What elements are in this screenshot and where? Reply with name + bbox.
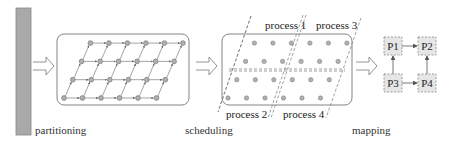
task-node xyxy=(80,96,85,101)
scheduled-task-node xyxy=(299,59,303,63)
task-edge xyxy=(111,64,117,78)
scheduled-tasks xyxy=(226,41,349,100)
svg-text:P3: P3 xyxy=(387,77,399,89)
task-graph-grid xyxy=(62,41,186,101)
task-node xyxy=(162,41,167,46)
task-edge xyxy=(84,82,90,96)
processor-p1: P1 xyxy=(384,37,402,55)
partition-graph-box xyxy=(57,34,189,105)
processor-p2: P2 xyxy=(418,37,436,55)
task-edge xyxy=(158,82,164,96)
task-node xyxy=(107,41,112,46)
scheduled-task-node xyxy=(326,41,330,45)
task-node xyxy=(117,96,122,101)
scheduled-task-node xyxy=(272,78,276,82)
scheduled-task-node xyxy=(263,96,267,100)
processor-p4: P4 xyxy=(418,74,436,92)
scheduled-task-node xyxy=(244,96,248,100)
scheduled-task-node xyxy=(317,59,321,63)
schedule-box: process 1 process 3 process 2 process 4 xyxy=(218,15,361,120)
task-node xyxy=(79,59,84,64)
scheduled-task-node xyxy=(280,59,284,63)
scheduled-task-node xyxy=(327,78,331,82)
svg-text:P4: P4 xyxy=(421,77,433,89)
task-edge xyxy=(66,82,72,96)
scheduled-task-node xyxy=(271,41,275,45)
hollow-arrow-icon xyxy=(196,57,217,75)
process-4-label: process 4 xyxy=(283,108,325,120)
task-node xyxy=(70,77,75,82)
task-edge xyxy=(121,82,127,96)
scheduled-task-node xyxy=(262,59,266,63)
task-edge xyxy=(157,46,163,60)
stage-label-mapping: mapping xyxy=(352,124,391,136)
scheduled-task-node xyxy=(290,78,294,82)
task-node xyxy=(126,77,131,82)
task-node xyxy=(163,77,168,82)
task-node xyxy=(99,96,104,101)
task-node xyxy=(154,96,159,101)
task-edge xyxy=(167,64,173,78)
scheduled-task-node xyxy=(252,41,256,45)
task-node xyxy=(88,41,93,46)
scheduled-task-node xyxy=(300,96,304,100)
process-boundary-right xyxy=(326,18,361,118)
task-edge xyxy=(102,46,108,60)
scheduled-task-node xyxy=(336,59,340,63)
task-node xyxy=(135,59,140,64)
processor-map: P1 P2 P3 P4 xyxy=(384,37,436,92)
scheduled-task-node xyxy=(281,96,285,100)
stage-label-scheduling: scheduling xyxy=(185,124,233,136)
scheduled-task-node xyxy=(318,96,322,100)
task-edge xyxy=(139,46,145,60)
stage-label-partitioning: partitioning xyxy=(35,124,87,136)
task-edge xyxy=(83,46,89,60)
task-edge xyxy=(148,64,154,78)
task-edge xyxy=(130,64,136,78)
hollow-arrow-icon xyxy=(356,57,377,75)
hollow-arrow-icon xyxy=(33,57,54,75)
task-edge xyxy=(120,46,126,60)
scheduled-task-node xyxy=(243,59,247,63)
task-node xyxy=(181,41,186,46)
svg-text:P1: P1 xyxy=(387,40,399,52)
task-edge xyxy=(74,64,80,78)
task-node xyxy=(153,59,158,64)
task-node xyxy=(116,59,121,64)
task-node xyxy=(98,59,103,64)
scheduled-task-node xyxy=(345,41,349,45)
task-edge xyxy=(140,82,146,96)
svg-text:P2: P2 xyxy=(421,40,433,52)
task-node xyxy=(136,96,141,101)
scheduled-task-node xyxy=(226,96,230,100)
process-1-label: process 1 xyxy=(265,19,306,31)
task-node xyxy=(89,77,94,82)
task-node xyxy=(144,77,149,82)
task-edge xyxy=(176,46,182,60)
task-node xyxy=(144,41,149,46)
scheduled-task-node xyxy=(308,41,312,45)
workflow-diagram: process 1 process 3 process 2 process 4 … xyxy=(0,0,454,142)
task-edge xyxy=(103,82,109,96)
data-bar xyxy=(16,8,31,135)
processor-p3: P3 xyxy=(384,74,402,92)
scheduled-task-node xyxy=(309,78,313,82)
task-node xyxy=(125,41,130,46)
scheduled-task-node xyxy=(235,78,239,82)
task-node xyxy=(62,96,67,101)
scheduled-task-node xyxy=(253,78,257,82)
task-node xyxy=(172,59,177,64)
process-2-label: process 2 xyxy=(226,108,267,120)
task-edge xyxy=(93,64,99,78)
task-node xyxy=(107,77,112,82)
process-3-label: process 3 xyxy=(316,19,358,31)
